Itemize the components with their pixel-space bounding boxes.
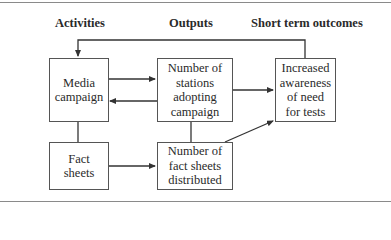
box-text: campaign [55,90,104,105]
box-increased-awareness: Increased awareness of need for tests [275,58,336,122]
box-text: adopting [168,90,223,105]
box-text: Number of [168,61,223,76]
box-text: stations [168,76,223,91]
box-text: distributed [168,173,223,188]
box-text: fact sheets [168,159,223,174]
box-text: awareness [280,76,331,91]
box-stations-adopting: Number of stations adopting campaign [157,58,233,122]
box-text: campaign [168,105,223,120]
box-text: Media [55,76,104,91]
box-text: Increased [280,61,331,76]
box-text: of need [280,90,331,105]
box-media-campaign: Media campaign [49,58,109,122]
box-text: for tests [280,105,331,120]
arrow-distributed-to-awareness [225,121,273,142]
box-text: Fact [64,152,95,167]
box-text: Number of [168,144,223,159]
feedback-arrow [78,40,305,58]
box-fact-sheets-distributed: Number of fact sheets distributed [157,142,233,190]
box-fact-sheets: Fact sheets [49,142,109,190]
box-text: sheets [64,166,95,181]
